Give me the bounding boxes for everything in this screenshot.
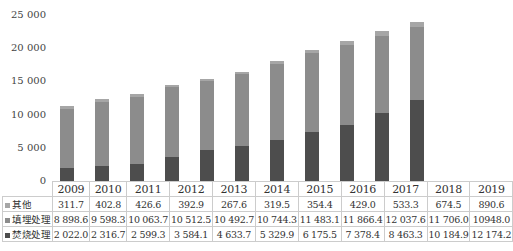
bar-segment	[60, 106, 74, 108]
data-table-cell: 2 022.0	[52, 227, 89, 242]
data-table-cell: 11 866.4	[341, 212, 384, 227]
x-tick-label: 2013	[212, 182, 255, 197]
bar-segment	[410, 22, 424, 28]
bar-segment	[95, 166, 109, 181]
bar-segment	[200, 81, 214, 151]
bar-segment	[305, 132, 319, 181]
data-table-cell: 2 599.3	[127, 227, 170, 242]
x-tick-label: 2012	[170, 182, 213, 197]
data-table-cell: 6 175.5	[298, 227, 341, 242]
data-table-cell: 674.5	[427, 197, 470, 212]
bar-segment	[270, 64, 284, 140]
bar-segment	[410, 100, 424, 181]
bar-segment	[130, 97, 144, 164]
bar-2015	[270, 61, 284, 181]
bar-2010	[95, 99, 109, 181]
legend-entry: 其他	[3, 197, 53, 212]
data-table-row: 填埋处理8 898.69 598.310 063.710 512.510 492…	[3, 212, 513, 227]
bar-segment	[95, 102, 109, 166]
bar-2019	[410, 22, 424, 181]
y-tick-label: 10 000	[0, 109, 46, 121]
data-table-cell: 392.9	[170, 197, 213, 212]
bar-segment	[130, 164, 144, 181]
bar-segment	[375, 36, 389, 114]
bar-segment	[305, 53, 319, 132]
bar-segment	[130, 94, 144, 97]
data-table-cell: 10948.0	[470, 212, 513, 227]
legend-swatch-icon	[5, 233, 10, 238]
bar-segment	[270, 61, 284, 63]
bar-2016	[305, 50, 319, 181]
data-table-cell: 12 174.2	[470, 227, 513, 242]
bar-segment	[165, 87, 179, 157]
bar-segment	[270, 140, 284, 181]
y-tick-label: 15 000	[0, 75, 46, 87]
x-tick-label: 2010	[89, 182, 126, 197]
bar-2012	[165, 85, 179, 181]
data-table-cell: 10 184.9	[427, 227, 470, 242]
bar-2017	[340, 41, 354, 181]
x-tick-label: 2011	[127, 182, 170, 197]
x-tick-label: 2019	[470, 182, 513, 197]
bar-segment	[165, 157, 179, 181]
bar-2011	[130, 94, 144, 181]
bar-segment	[200, 150, 214, 181]
data-table-cell: 890.6	[470, 197, 513, 212]
plot-area	[50, 15, 434, 181]
y-tick-label: 5 000	[0, 142, 46, 154]
bar-2013	[200, 79, 214, 181]
bar-segment	[60, 109, 74, 168]
x-tick-label: 2016	[341, 182, 384, 197]
bar-segment	[235, 74, 249, 145]
data-table-cell: 426.6	[127, 197, 170, 212]
x-tick-label: 2018	[427, 182, 470, 197]
bar-segment	[60, 168, 74, 181]
data-table-row: 其他311.7402.8426.6392.9267.6319.5354.4429…	[3, 197, 513, 212]
data-table-cell: 267.6	[212, 197, 255, 212]
data-table-cell: 429.0	[341, 197, 384, 212]
y-tick-label: 25 000	[0, 9, 46, 21]
bar-2009	[60, 106, 74, 181]
legend-entry: 填埋处理	[3, 212, 53, 227]
data-table-cell: 8 463.3	[384, 227, 427, 242]
bar-segment	[200, 79, 214, 81]
data-table-cell: 311.7	[52, 197, 89, 212]
data-table-cell: 10 492.7	[212, 212, 255, 227]
x-tick-label: 2015	[298, 182, 341, 197]
data-table-cell: 11 706.0	[427, 212, 470, 227]
bar-segment	[375, 31, 389, 35]
bar-segment	[95, 99, 109, 102]
bar-segment	[340, 125, 354, 181]
bar-segment	[305, 50, 319, 53]
data-table-row: 焚烧处理2 022.02 316.72 599.33 584.14 633.75…	[3, 227, 513, 242]
data-table-cell: 5 329.9	[255, 227, 298, 242]
legend-entry: 焚烧处理	[3, 227, 53, 242]
data-table-cell: 533.3	[384, 197, 427, 212]
data-table-cell: 7 378.4	[341, 227, 384, 242]
data-table-cell: 9 598.3	[89, 212, 126, 227]
bar-segment	[410, 27, 424, 100]
data-table-cell: 354.4	[298, 197, 341, 212]
data-table-cell: 4 633.7	[212, 227, 255, 242]
bar-segment	[235, 72, 249, 74]
bar-segment	[375, 113, 389, 181]
y-tick-label: 20 000	[0, 42, 46, 54]
bar-2018	[375, 31, 389, 181]
data-table-cell: 10 063.7	[127, 212, 170, 227]
data-table-cell: 10 512.5	[170, 212, 213, 227]
x-tick-label: 2017	[384, 182, 427, 197]
bar-segment	[340, 45, 354, 125]
data-table-cell: 2 316.7	[89, 227, 126, 242]
data-table: 2009201020112012201320142015201620172018…	[2, 181, 513, 242]
x-tick-label: 2009	[52, 182, 89, 197]
data-table-cell: 8 898.6	[52, 212, 89, 227]
data-table-cell: 11 483.1	[298, 212, 341, 227]
data-table-cell: 402.8	[89, 197, 126, 212]
data-table-cell: 319.5	[255, 197, 298, 212]
data-table-cell: 10 744.3	[255, 212, 298, 227]
data-table-cell: 3 584.1	[170, 227, 213, 242]
legend-swatch-icon	[5, 203, 10, 208]
bar-segment	[340, 41, 354, 45]
bar-segment	[165, 85, 179, 88]
legend-swatch-icon	[5, 218, 10, 223]
